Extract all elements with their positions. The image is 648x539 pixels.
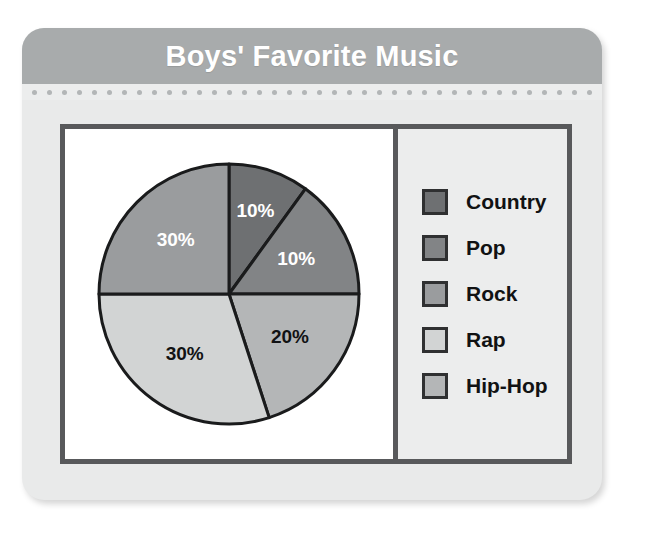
separator-dot xyxy=(557,90,562,95)
separator-dot xyxy=(182,90,187,95)
pie-label-country: 10% xyxy=(236,200,274,221)
legend-item-rock[interactable]: Rock xyxy=(422,271,567,317)
separator-dot xyxy=(122,90,127,95)
separator-dot xyxy=(437,90,442,95)
bleedthrough-text-top xyxy=(150,2,157,28)
separator-dot xyxy=(32,90,37,95)
legend-label-pop: Pop xyxy=(466,236,506,260)
legend: Country Pop Rock Rap Hip-Hop xyxy=(393,129,567,459)
separator-dot xyxy=(62,90,67,95)
legend-label-hip-hop: Hip-Hop xyxy=(466,374,548,398)
legend-item-hip-hop[interactable]: Hip-Hop xyxy=(422,363,567,409)
separator-dot xyxy=(257,90,262,95)
legend-label-rap: Rap xyxy=(466,328,506,352)
legend-swatch-rap xyxy=(422,327,448,353)
chart-card: Boys' Favorite Music 10%10%20%30%30% Cou… xyxy=(22,28,602,500)
separator-dot xyxy=(467,90,472,95)
pie-chart: 10%10%20%30%30% xyxy=(93,158,365,430)
separator-dot xyxy=(392,90,397,95)
separator-dot xyxy=(212,90,217,95)
separator-dot xyxy=(137,90,142,95)
separator-dot xyxy=(167,90,172,95)
pie-label-rock: 30% xyxy=(157,229,195,250)
separator-dot xyxy=(527,90,532,95)
legend-label-country: Country xyxy=(466,190,547,214)
legend-swatch-hip-hop xyxy=(422,373,448,399)
separator-dot xyxy=(197,90,202,95)
separator-dot xyxy=(452,90,457,95)
bleedthrough-text-bottom xyxy=(30,512,37,538)
separator-dot xyxy=(407,90,412,95)
legend-swatch-country xyxy=(422,189,448,215)
separator-dot xyxy=(227,90,232,95)
separator-dot xyxy=(422,90,427,95)
separator-dot xyxy=(572,90,577,95)
legend-item-rap[interactable]: Rap xyxy=(422,317,567,363)
legend-item-country[interactable]: Country xyxy=(422,179,567,225)
legend-label-rock: Rock xyxy=(466,282,517,306)
separator-dot xyxy=(77,90,82,95)
pie-slices xyxy=(99,164,359,424)
legend-swatch-rock xyxy=(422,281,448,307)
separator-dot xyxy=(317,90,322,95)
legend-item-pop[interactable]: Pop xyxy=(422,225,567,271)
separator-dot xyxy=(107,90,112,95)
separator-dot xyxy=(512,90,517,95)
legend-swatch-pop xyxy=(422,235,448,261)
separator-dot xyxy=(287,90,292,95)
pie-chart-svg: 10%10%20%30%30% xyxy=(93,158,365,430)
separator-dot xyxy=(152,90,157,95)
separator-dot xyxy=(272,90,277,95)
pie-label-hip-hop: 20% xyxy=(271,326,309,347)
separator-dot xyxy=(47,90,52,95)
separator-dot xyxy=(347,90,352,95)
pie-label-rap: 30% xyxy=(166,343,204,364)
card-header: Boys' Favorite Music xyxy=(22,28,602,84)
separator-dot xyxy=(302,90,307,95)
separator-dot xyxy=(377,90,382,95)
separator-dot xyxy=(587,90,592,95)
separator-dot xyxy=(482,90,487,95)
separator-dot xyxy=(242,90,247,95)
separator-dot xyxy=(542,90,547,95)
dotted-separator xyxy=(22,84,602,100)
pie-chart-pane: 10%10%20%30%30% xyxy=(65,129,393,459)
separator-dot xyxy=(332,90,337,95)
chart-frame: 10%10%20%30%30% Country Pop Rock Rap xyxy=(60,124,572,464)
pie-label-pop: 10% xyxy=(277,248,315,269)
separator-dot xyxy=(497,90,502,95)
separator-dot xyxy=(362,90,367,95)
separator-dot xyxy=(92,90,97,95)
page-title: Boys' Favorite Music xyxy=(166,40,459,73)
